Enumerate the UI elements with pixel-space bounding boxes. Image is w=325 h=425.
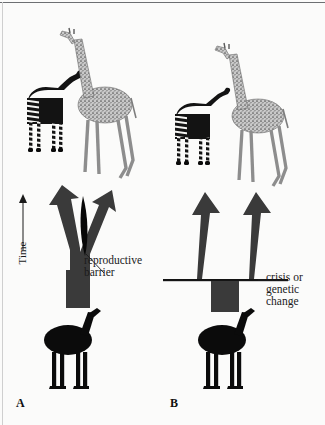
panel-b-giraffe — [215, 43, 288, 186]
panel-a-ancestor — [44, 308, 101, 389]
reproductive-barrier-label: reproductive barrier — [84, 255, 142, 279]
panel-a-giraffe — [60, 28, 136, 178]
crisis-genetic-change-label: crisis or genetic change — [266, 272, 303, 308]
panel-a-okapi — [27, 71, 82, 152]
panel-b-ancestor — [198, 308, 255, 389]
panel-letter-b: B — [170, 396, 178, 411]
panel-letter-a: A — [16, 396, 25, 411]
reproductive-barrier-wedge — [81, 196, 88, 256]
time-axis-label: Time — [16, 225, 28, 281]
figure-plate: reproductive barrier crisis or genetic c… — [0, 0, 325, 425]
diagram-canvas — [0, 0, 325, 425]
panel-b-ancestral-stem — [211, 281, 239, 312]
panel-b-okapi — [175, 88, 230, 165]
